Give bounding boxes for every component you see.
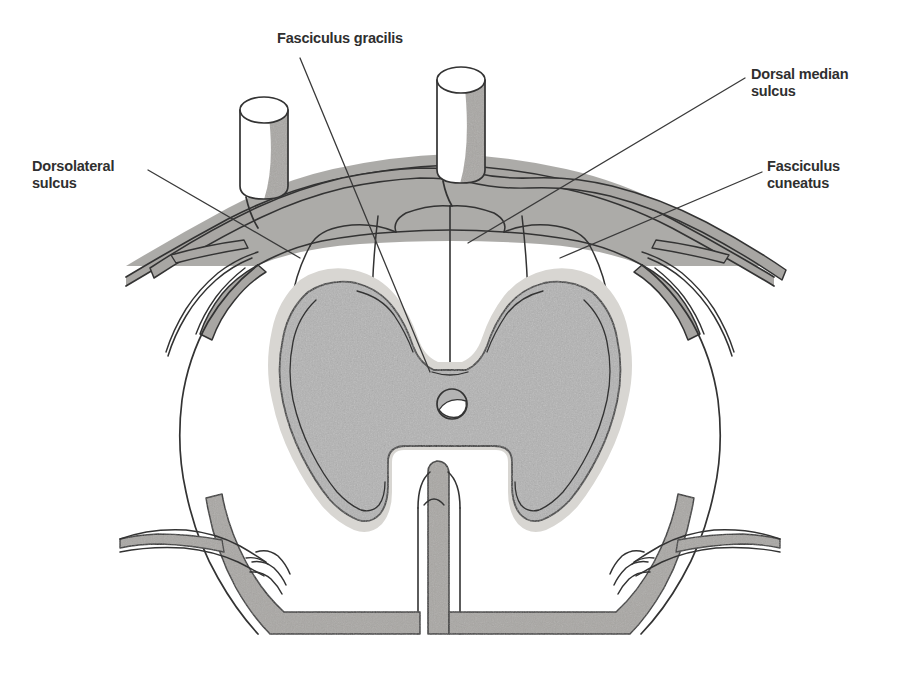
label-dorsolateral-sulcus: Dorsolateral sulcus: [32, 158, 114, 192]
label-dorsal-median-sulcus: Dorsal median sulcus: [751, 66, 848, 100]
central-canal: [437, 389, 467, 419]
label-fasciculus-cuneatus: Fasciculus cuneatus: [767, 158, 840, 192]
dorsal-root-cylinder-right: [437, 67, 489, 190]
spinal-cord-figure: Fasciculus gracilis Dorsal median sulcus…: [0, 0, 899, 679]
label-fasciculus-gracilis: Fasciculus gracilis: [277, 30, 403, 47]
spinal-cord-illustration: [0, 0, 899, 679]
dorsal-root-cylinder-left: [240, 97, 292, 205]
